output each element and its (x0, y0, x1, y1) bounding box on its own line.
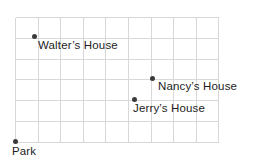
data-point-nancys-house (150, 76, 155, 81)
data-label-walters-house: Walter’s House (38, 39, 118, 51)
data-point-jerrys-house (132, 97, 137, 102)
data-label-park: Park (12, 145, 36, 157)
data-point-park (13, 139, 18, 144)
scatter-plot-figure: Walter’s House Nancy’s House Jerry’s Hou… (0, 0, 254, 164)
data-label-nancys-house: Nancy’s House (158, 80, 237, 92)
data-label-jerrys-house: Jerry’s House (133, 102, 205, 114)
data-point-walters-house (32, 34, 37, 39)
